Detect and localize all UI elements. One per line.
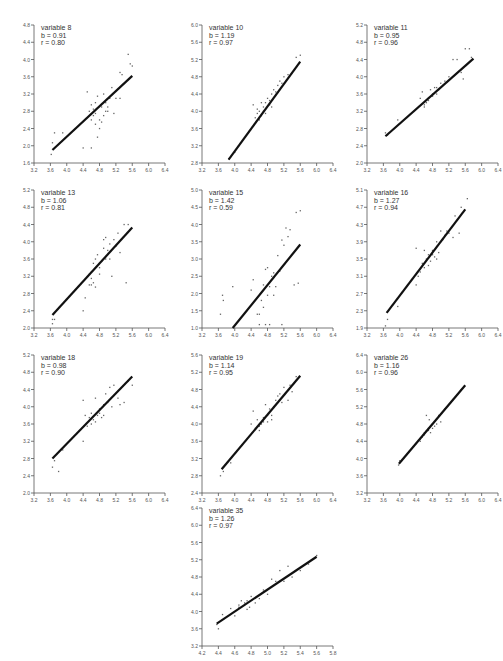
y-tick-label: 3.5 bbox=[356, 256, 363, 262]
y-tick-label: 3.6 bbox=[23, 421, 30, 427]
y-tick-label: 5.2 bbox=[23, 187, 30, 193]
y-tick-label: 4.8 bbox=[23, 204, 30, 210]
y-tick-label: 2.0 bbox=[23, 325, 30, 331]
variable-label: variable 18 bbox=[41, 354, 75, 361]
x-tick-label: 4.0 bbox=[63, 497, 70, 503]
x-tick-label: 4.2 bbox=[199, 650, 206, 656]
y-tick-label: 3.5 bbox=[191, 239, 198, 245]
y-tick-label: 4.0 bbox=[356, 74, 363, 80]
scatter-panel-variable-8: 1.62.02.42.83.23.64.04.44.83.23.64.04.44… bbox=[4, 19, 175, 183]
y-tick-label: 5.2 bbox=[191, 557, 198, 563]
x-tick-label: 6.4 bbox=[330, 167, 337, 173]
x-tick-label: 5.2 bbox=[280, 650, 287, 656]
x-tick-label: 4.8 bbox=[96, 332, 103, 338]
slope-label: b = 0.98 bbox=[41, 362, 67, 369]
y-tick-label: 3.6 bbox=[191, 438, 198, 444]
y-tick-label: 2.0 bbox=[191, 291, 198, 297]
x-tick-label: 5.6 bbox=[462, 167, 469, 173]
x-tick-label: 3.6 bbox=[380, 332, 387, 338]
correlation-label: r = 0.97 bbox=[209, 39, 233, 46]
x-tick-label: 4.0 bbox=[396, 332, 403, 338]
y-tick-label: 4.5 bbox=[191, 204, 198, 210]
y-tick-label: 4.8 bbox=[23, 369, 30, 375]
y-tick-label: 4.0 bbox=[191, 108, 198, 114]
slope-label: b = 1.19 bbox=[209, 32, 235, 39]
x-tick-label: 4.4 bbox=[413, 332, 420, 338]
y-tick-label: 4.0 bbox=[191, 222, 198, 228]
y-tick-label: 2.0 bbox=[23, 490, 30, 496]
correlation-label: r = 0.90 bbox=[41, 369, 65, 376]
data-points bbox=[52, 380, 133, 472]
scatter-panel-variable-35: 3.23.64.04.44.85.25.66.06.44.24.44.64.85… bbox=[172, 502, 343, 661]
x-tick-label: 4.4 bbox=[413, 497, 420, 503]
x-tick-label: 5.6 bbox=[129, 332, 136, 338]
x-tick-label: 4.4 bbox=[215, 650, 222, 656]
x-tick-label: 5.6 bbox=[462, 332, 469, 338]
x-tick-label: 5.2 bbox=[280, 332, 287, 338]
y-tick-label: 2.5 bbox=[191, 273, 198, 279]
x-tick-label: 4.8 bbox=[429, 497, 436, 503]
y-tick-label: 5.1 bbox=[356, 187, 363, 193]
x-tick-label: 4.4 bbox=[80, 167, 87, 173]
regression-line bbox=[399, 385, 465, 463]
x-tick-label: 3.6 bbox=[215, 167, 222, 173]
x-tick-label: 3.2 bbox=[199, 167, 206, 173]
x-tick-label: 3.2 bbox=[31, 332, 38, 338]
slope-label: b = 1.14 bbox=[209, 362, 235, 369]
x-tick-label: 5.2 bbox=[445, 332, 452, 338]
y-tick-label: 2.4 bbox=[191, 490, 198, 496]
y-tick-label: 6.0 bbox=[191, 22, 198, 28]
regression-line bbox=[229, 62, 301, 160]
y-tick-label: 5.6 bbox=[356, 387, 363, 393]
x-tick-label: 4.0 bbox=[63, 332, 70, 338]
x-tick-label: 4.0 bbox=[63, 167, 70, 173]
x-tick-label: 4.0 bbox=[396, 497, 403, 503]
x-tick-label: 4.8 bbox=[96, 497, 103, 503]
y-tick-label: 5.2 bbox=[191, 57, 198, 63]
y-tick-label: 4.0 bbox=[23, 57, 30, 63]
scatter-panel-variable-19: 2.42.83.23.64.04.44.85.25.63.23.64.04.44… bbox=[172, 349, 343, 513]
x-tick-label: 5.4 bbox=[297, 650, 304, 656]
slope-label: b = 1.42 bbox=[209, 197, 235, 204]
regression-line bbox=[52, 76, 132, 150]
x-tick-label: 4.8 bbox=[429, 167, 436, 173]
x-tick-label: 4.0 bbox=[231, 332, 238, 338]
correlation-label: r = 0.59 bbox=[209, 204, 233, 211]
x-tick-label: 6.0 bbox=[478, 497, 485, 503]
x-tick-label: 3.2 bbox=[364, 332, 371, 338]
x-tick-label: 4.4 bbox=[248, 332, 255, 338]
y-tick-label: 4.0 bbox=[356, 456, 363, 462]
correlation-label: r = 0.96 bbox=[374, 39, 398, 46]
x-tick-label: 5.6 bbox=[129, 167, 136, 173]
y-tick-label: 5.6 bbox=[191, 540, 198, 546]
y-tick-label: 4.4 bbox=[23, 222, 30, 228]
x-tick-label: 5.2 bbox=[280, 167, 287, 173]
scatter-panel-variable-18: 2.02.42.83.23.64.04.44.85.23.23.64.04.44… bbox=[4, 349, 175, 513]
x-tick-label: 3.2 bbox=[364, 167, 371, 173]
y-tick-label: 3.2 bbox=[23, 273, 30, 279]
slope-label: b = 1.26 bbox=[209, 515, 235, 522]
y-tick-label: 4.4 bbox=[191, 91, 198, 97]
correlation-label: r = 0.94 bbox=[374, 204, 398, 211]
variable-label: variable 15 bbox=[209, 189, 243, 196]
x-tick-label: 4.4 bbox=[80, 332, 87, 338]
y-tick-label: 2.7 bbox=[356, 291, 363, 297]
x-tick-label: 6.4 bbox=[495, 332, 502, 338]
y-tick-label: 4.4 bbox=[356, 57, 363, 63]
y-tick-label: 3.1 bbox=[356, 273, 363, 279]
y-tick-label: 4.8 bbox=[356, 421, 363, 427]
y-tick-label: 4.8 bbox=[191, 387, 198, 393]
y-tick-label: 5.2 bbox=[356, 22, 363, 28]
slope-label: b = 1.16 bbox=[374, 362, 400, 369]
x-tick-label: 4.4 bbox=[248, 167, 255, 173]
variable-label: variable 19 bbox=[209, 354, 243, 361]
variable-label: variable 13 bbox=[41, 189, 75, 196]
x-tick-label: 5.6 bbox=[313, 650, 320, 656]
x-tick-label: 3.6 bbox=[47, 497, 54, 503]
y-tick-label: 4.0 bbox=[191, 609, 198, 615]
y-tick-label: 1.0 bbox=[191, 325, 198, 331]
x-tick-label: 4.8 bbox=[429, 332, 436, 338]
y-tick-label: 4.4 bbox=[356, 438, 363, 444]
y-tick-label: 5.2 bbox=[23, 352, 30, 358]
x-tick-label: 3.6 bbox=[380, 167, 387, 173]
